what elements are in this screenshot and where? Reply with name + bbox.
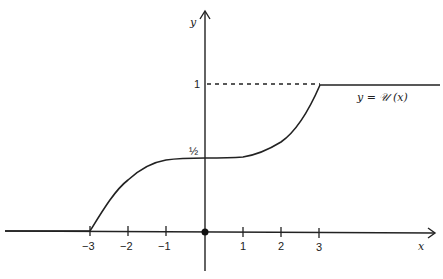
origin-dot [202, 229, 209, 236]
x-tick-label: 3 [316, 241, 322, 253]
x-axis-label: x [418, 240, 425, 253]
function-curve [5, 85, 440, 231]
y-tick-label-one: 1 [194, 78, 200, 90]
x-tick-label: 1 [240, 240, 246, 252]
x-tick-label: 2 [278, 240, 284, 252]
y-tick-label-half: ½ [189, 145, 198, 157]
y-axis-label: y [189, 16, 197, 29]
step-function-plot: −3 −2 −1 1 2 3 x y 1 ½ y = 𝒰 (x) [0, 0, 443, 279]
curve-label: y = 𝒰 (x) [356, 91, 408, 104]
x-tick-label: −3 [82, 240, 95, 252]
x-tick-label: −2 [120, 240, 133, 252]
x-tick-label: −1 [158, 240, 171, 252]
